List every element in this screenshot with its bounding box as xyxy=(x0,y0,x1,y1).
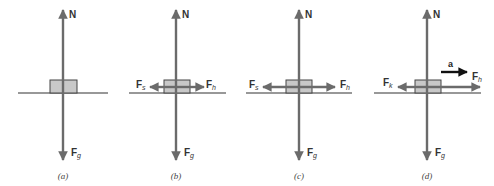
horizontal-force-label: Fh xyxy=(340,80,350,91)
normal-force-label: N xyxy=(305,10,312,20)
static-friction-label: Fs xyxy=(249,80,259,91)
gravity-force-label: Fg xyxy=(307,148,317,159)
normal-force-label: N xyxy=(69,10,76,20)
gravity-force-label: Fg xyxy=(184,148,194,159)
normal-force-label: N xyxy=(433,10,440,20)
panel-caption: (d) xyxy=(422,172,433,181)
gravity-force-label: Fg xyxy=(435,148,445,159)
panel-c xyxy=(246,10,352,160)
panel-caption: (c) xyxy=(294,172,304,181)
horizontal-force-label: Fh xyxy=(206,80,216,91)
horizontal-force-label: Fh xyxy=(472,72,482,83)
kinetic-friction-label: Fk xyxy=(383,78,393,89)
gravity-force-label: Fg xyxy=(71,148,81,159)
panel-caption: (b) xyxy=(171,172,182,181)
acceleration-label: a xyxy=(448,60,453,69)
panel-a xyxy=(18,10,108,160)
panel-caption: (a) xyxy=(58,172,69,181)
static-friction-label: Fs xyxy=(136,80,146,91)
normal-force-label: N xyxy=(182,10,189,20)
